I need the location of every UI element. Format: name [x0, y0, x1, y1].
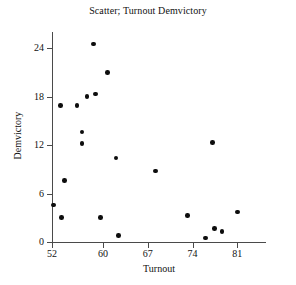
y-tick-label-wrap: 6	[10, 189, 44, 199]
x-tick-label: 67	[133, 248, 163, 259]
data-point	[116, 233, 121, 238]
data-point	[185, 213, 190, 218]
x-tick-label: 74	[178, 248, 208, 259]
data-point	[210, 140, 215, 145]
data-point	[51, 203, 56, 208]
y-tick-label: 24	[16, 43, 44, 53]
y-tick-mark	[47, 97, 52, 98]
y-tick-label-wrap: 0	[10, 237, 44, 247]
x-axis-title: Turnout	[52, 263, 266, 274]
data-point	[80, 141, 85, 146]
x-tick-label: 60	[88, 248, 118, 259]
x-tick-label: 81	[222, 248, 252, 259]
data-point	[114, 156, 119, 161]
y-tick-mark	[47, 194, 52, 195]
data-point	[85, 94, 90, 99]
data-point	[80, 130, 85, 135]
data-point	[59, 215, 64, 220]
y-axis-title: Demvictory	[12, 96, 23, 176]
x-tick-label: 52	[37, 248, 67, 259]
data-point	[235, 210, 240, 215]
y-tick-mark	[47, 145, 52, 146]
y-tick-mark	[47, 48, 52, 49]
y-tick-label-wrap: 24	[10, 43, 44, 53]
scatter-plot-figure: Scatter; Turnout Demvictory 06121824 526…	[0, 0, 296, 285]
y-tick-label: 6	[16, 189, 44, 199]
data-point	[62, 178, 67, 183]
data-point	[75, 103, 80, 108]
data-point	[220, 229, 225, 234]
y-tick-label: 0	[16, 237, 44, 247]
x-axis-line	[52, 242, 266, 243]
data-point	[153, 169, 158, 174]
data-point	[93, 92, 98, 97]
data-point	[58, 103, 63, 108]
data-point	[203, 236, 208, 241]
plot-area: 06121824 5260677481 Turnout Demvictory	[0, 0, 296, 285]
data-point	[105, 70, 110, 75]
y-axis-line	[52, 32, 53, 243]
data-point	[212, 226, 217, 231]
data-point	[91, 42, 96, 47]
data-point	[98, 215, 103, 220]
